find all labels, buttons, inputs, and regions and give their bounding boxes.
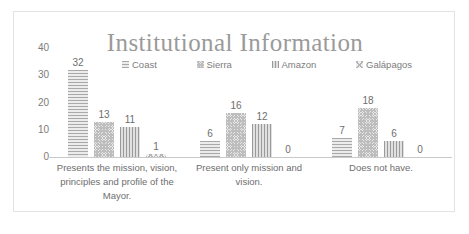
bar-sierra[interactable] <box>226 113 246 157</box>
bar-slot-coast[interactable]: 6 <box>200 48 220 157</box>
bar-coast[interactable] <box>200 141 220 157</box>
bar-slot-sierra[interactable]: 13 <box>94 48 114 157</box>
y-tick-20: 20 <box>38 98 49 108</box>
bar-value-label: 12 <box>256 112 267 122</box>
bar-value-label: 32 <box>72 58 83 68</box>
bar-slot-sierra[interactable]: 16 <box>226 48 246 157</box>
chart-screenshot: Institutional Information Coast Sierra A… <box>0 0 469 234</box>
category-label-3: Does not have. <box>315 161 447 203</box>
bar-value-label: 18 <box>362 96 373 106</box>
bar-value-label: 16 <box>230 101 241 111</box>
bar-slot-galapagos[interactable]: 0 <box>410 48 430 157</box>
bar-coast[interactable] <box>68 70 88 157</box>
bar-value-label: 13 <box>98 110 109 120</box>
bar-slot-galapagos[interactable]: 1 <box>146 48 166 157</box>
bar-slot-sierra[interactable]: 18 <box>358 48 378 157</box>
category-label-2: Present only mission and vision. <box>183 161 315 203</box>
bar-amazon[interactable] <box>252 124 272 157</box>
bar-slot-galapagos[interactable]: 0 <box>278 48 298 157</box>
bar-group-2: 6 16 12 0 <box>183 48 315 157</box>
bar-coast[interactable] <box>332 138 352 157</box>
bar-slot-amazon[interactable]: 6 <box>384 48 404 157</box>
bar-value-label: 6 <box>391 129 397 139</box>
bar-value-label: 1 <box>153 142 159 152</box>
bar-slot-coast[interactable]: 7 <box>332 48 352 157</box>
y-tick-40: 40 <box>38 43 49 53</box>
bar-amazon[interactable] <box>120 127 140 157</box>
y-axis: 40 30 20 10 0 <box>27 48 49 157</box>
plot-area: 32 13 11 1 <box>51 48 447 157</box>
bar-slot-coast[interactable]: 32 <box>68 48 88 157</box>
bar-group-3: 7 18 6 0 <box>315 48 447 157</box>
bar-value-label: 6 <box>207 129 213 139</box>
bar-galapagos[interactable] <box>146 154 166 157</box>
x-axis-category-labels: Presents the mission, vision, principles… <box>51 161 447 203</box>
x-axis-line <box>48 157 452 158</box>
bar-group-1: 32 13 11 1 <box>51 48 183 157</box>
category-label-1: Presents the mission, vision, principles… <box>51 161 183 203</box>
bar-value-label: 11 <box>125 115 135 125</box>
bar-slot-amazon[interactable]: 11 <box>120 48 140 157</box>
bar-slot-amazon[interactable]: 12 <box>252 48 272 157</box>
bar-value-label: 7 <box>339 126 345 136</box>
y-tick-30: 30 <box>38 70 49 80</box>
bar-amazon[interactable] <box>384 141 404 157</box>
chart-frame: Institutional Information Coast Sierra A… <box>13 11 455 212</box>
bar-sierra[interactable] <box>94 122 114 157</box>
y-tick-10: 10 <box>38 125 49 135</box>
bar-sierra[interactable] <box>358 108 378 157</box>
bar-value-label: 0 <box>417 145 423 155</box>
bar-value-label: 0 <box>285 145 291 155</box>
